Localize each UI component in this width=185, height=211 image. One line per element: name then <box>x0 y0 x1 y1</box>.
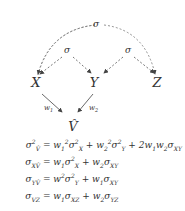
node-y: Y <box>90 75 100 90</box>
equation-cov-yv: σYV̂ = w2σ2Y + w1σXY <box>0 174 185 184</box>
weight-label-w2: w2 <box>89 104 98 113</box>
node-v-hat: V̂ <box>68 119 79 134</box>
sigma-label-yz: σ <box>125 45 132 55</box>
sigma-label-xz: σ <box>93 19 100 29</box>
path-diagram: σ σ σ X Y Z V̂ w1 w2 <box>0 0 185 140</box>
sigma-label-xy: σ <box>64 45 71 55</box>
equation-cov-vz: σVZ = w1σXZ + w2σYZ <box>0 191 185 201</box>
weight-label-w1: w1 <box>44 104 53 113</box>
equation-variance-v: σ2V̂ = w12σ2X + w22σ2Y + 2w1w2σXY <box>0 140 185 150</box>
node-z: Z <box>151 75 162 90</box>
equation-cov-xv: σXV̂ = w1σ2X + w2σXY <box>0 157 185 167</box>
node-x: X <box>30 75 41 90</box>
